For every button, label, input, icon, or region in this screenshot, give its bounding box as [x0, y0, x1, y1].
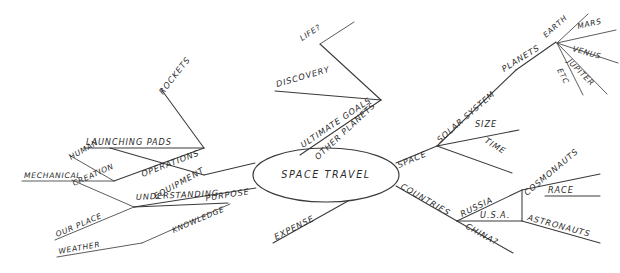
label-mars: MARS — [576, 17, 602, 31]
center-node-label: SPACE TRAVEL — [281, 169, 371, 180]
branch-china[interactable]: CHINA? — [457, 221, 513, 253]
branch-launching-pads[interactable]: LAUNCHING PADS — [84, 137, 204, 148]
branch-discovery[interactable]: DISCOVERY — [275, 64, 381, 100]
branch-other-planets[interactable]: OTHER PLANETS — [312, 44, 381, 162]
label-life: LIFE? — [298, 23, 322, 43]
branch-weather[interactable]: WEATHER — [57, 240, 142, 257]
branch-planets[interactable]: PLANETS — [500, 42, 556, 74]
branch-understanding[interactable]: UNDERSTANDING — [134, 188, 228, 207]
mindmap-canvas: SPACE TRAVEL EQUIPMENT ROCKETS LAUNCHING… — [0, 0, 620, 273]
branch-cosmonauts[interactable]: COSMONAUTS — [522, 146, 600, 221]
label-space: SPACE — [396, 149, 428, 170]
label-expense: EXPENSE — [272, 213, 315, 242]
branch-venus[interactable]: VENUS — [557, 43, 618, 63]
branch-knowledge[interactable]: KNOWLEDGE — [142, 204, 230, 243]
label-countries: COUNTRIES — [399, 181, 452, 218]
label-china: CHINA? — [464, 221, 500, 247]
label-time: TIME — [483, 135, 508, 156]
label-jupiter: JUPITER — [564, 56, 596, 88]
label-usa: U.S.A. — [480, 210, 510, 220]
label-etc: ETC — [555, 67, 571, 86]
label-astronauts: ASTRONAUTS — [526, 212, 592, 239]
label-our-place: OUR PLACE — [54, 211, 103, 239]
branch-astronauts[interactable]: ASTRONAUTS — [522, 212, 600, 243]
line-center-to-equipment — [204, 163, 255, 175]
center-node[interactable]: SPACE TRAVEL — [253, 148, 399, 202]
mindmap-svg: SPACE TRAVEL EQUIPMENT ROCKETS LAUNCHING… — [0, 0, 620, 273]
label-rockets: ROCKETS — [157, 55, 193, 97]
label-size: SIZE — [475, 119, 497, 129]
label-human: HUMAN — [68, 138, 100, 162]
branch-countries[interactable]: COUNTRIES — [396, 181, 457, 221]
line-our-place — [55, 207, 134, 240]
line-mars — [557, 30, 616, 43]
label-discovery: DISCOVERY — [275, 64, 331, 89]
branch-race[interactable]: RACE — [545, 185, 600, 196]
branch-life[interactable]: LIFE? — [298, 22, 354, 44]
line-life — [320, 22, 354, 44]
branch-rockets[interactable]: ROCKETS — [157, 55, 204, 148]
branch-creation[interactable]: CREATION — [71, 162, 134, 207]
label-race: RACE — [548, 185, 574, 195]
label-knowledge: KNOWLEDGE — [171, 205, 226, 235]
branch-space[interactable]: SPACE — [396, 146, 437, 170]
label-venus: VENUS — [571, 44, 602, 61]
branch-our-place[interactable]: OUR PLACE — [54, 207, 134, 240]
branch-solar-system[interactable]: SOLAR SYSTEM — [435, 70, 516, 146]
branch-expense[interactable]: EXPENSE — [272, 201, 348, 243]
label-planets: PLANETS — [500, 42, 542, 73]
branch-time[interactable]: TIME — [437, 135, 512, 173]
